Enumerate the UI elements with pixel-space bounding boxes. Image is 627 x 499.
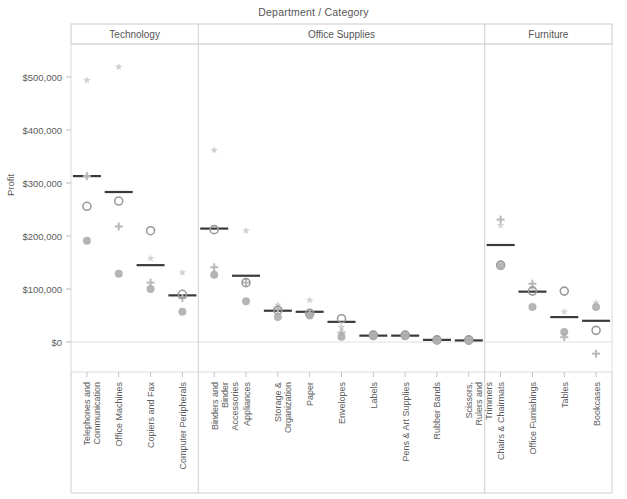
x-axis-category-label: Scissors,Rulers andTrimmers: [464, 382, 494, 426]
data-point-star[interactable]: [147, 254, 155, 261]
svg-text:Paper: Paper: [305, 382, 315, 406]
svg-text:Telephones and: Telephones and: [82, 382, 92, 446]
x-axis-category-label: Office Machines: [114, 382, 124, 447]
data-point-filled-circle[interactable]: [306, 312, 314, 320]
svg-text:Scissors,: Scissors,: [464, 382, 474, 419]
data-point-filled-circle[interactable]: [210, 271, 218, 279]
svg-text:Labels: Labels: [369, 382, 379, 409]
svg-text:Office Machines: Office Machines: [114, 382, 124, 447]
plot-area: $0$100,000$200,000$300,000$400,000$500,0…: [0, 0, 627, 499]
data-point-open-circle[interactable]: [560, 287, 568, 295]
y-axis-tick-label: $100,000: [22, 284, 62, 295]
data-point-star[interactable]: [115, 63, 123, 70]
data-point-filled-circle[interactable]: [497, 262, 505, 270]
data-point-filled-circle[interactable]: [433, 336, 441, 344]
x-axis-category-label: Tables: [560, 382, 570, 409]
x-axis-category-label: Copiers and Fax: [146, 382, 156, 449]
data-point-filled-circle[interactable]: [178, 308, 186, 316]
svg-text:Rulers and: Rulers and: [474, 382, 484, 426]
profit-scatter-chart: Department / Category Profit $0$100,000$…: [0, 0, 627, 499]
svg-text:Storage &: Storage &: [273, 382, 283, 422]
svg-text:Chairs & Chairmats: Chairs & Chairmats: [496, 382, 506, 461]
svg-text:Tables: Tables: [560, 382, 570, 409]
svg-text:Binder: Binder: [220, 382, 230, 408]
data-point-filled-circle[interactable]: [115, 270, 123, 278]
svg-text:Organization: Organization: [283, 382, 293, 433]
data-point-plus[interactable]: [210, 263, 218, 271]
data-point-filled-circle[interactable]: [592, 303, 600, 311]
y-axis-tick-label: $500,000: [22, 72, 62, 83]
data-point-plus[interactable]: [497, 216, 505, 224]
data-point-filled-circle[interactable]: [560, 328, 568, 336]
y-axis-tick-label: $0: [51, 337, 62, 348]
data-point-star[interactable]: [306, 296, 314, 303]
x-axis-category-label: Paper: [305, 382, 315, 406]
svg-text:Computer Peripherals: Computer Peripherals: [178, 382, 188, 470]
y-axis-tick-label: $200,000: [22, 231, 62, 242]
data-point-plus[interactable]: [115, 222, 123, 230]
data-point-star[interactable]: [210, 146, 218, 153]
data-point-open-circle[interactable]: [115, 197, 123, 205]
panel-header-label: Technology: [109, 29, 160, 40]
x-axis-category-label: Envelopes: [337, 382, 347, 425]
x-axis-category-label: Computer Peripherals: [178, 382, 188, 470]
svg-text:Accessories: Accessories: [230, 382, 240, 431]
x-axis-category-label: Bookcases: [592, 382, 602, 427]
x-axis-category-label: Telephones andCommunication: [82, 382, 102, 446]
data-point-filled-circle[interactable]: [465, 337, 473, 345]
data-point-filled-circle[interactable]: [401, 332, 409, 340]
svg-text:Binders and: Binders and: [210, 382, 220, 430]
data-point-star[interactable]: [179, 269, 187, 276]
data-point-plus[interactable]: [83, 172, 91, 180]
data-point-filled-circle[interactable]: [338, 333, 346, 341]
data-point-filled-circle[interactable]: [274, 313, 282, 321]
data-point-filled-circle[interactable]: [147, 285, 155, 293]
x-axis-category-label: Labels: [369, 382, 379, 409]
svg-text:Pens & Art Supplies: Pens & Art Supplies: [401, 382, 411, 462]
x-axis-category-label: Appliances: [242, 382, 252, 427]
svg-text:Communication: Communication: [92, 382, 102, 445]
svg-text:Rubber Bands: Rubber Bands: [432, 382, 442, 440]
x-axis-category-label: Binders andBinderAccessories: [210, 382, 240, 431]
x-axis-category-label: Chairs & Chairmats: [496, 382, 506, 461]
svg-text:Office Furnishings: Office Furnishings: [528, 382, 538, 455]
x-axis-category-label: Pens & Art Supplies: [401, 382, 411, 462]
data-point-filled-circle[interactable]: [83, 237, 91, 245]
panel-header-label: Furniture: [528, 29, 568, 40]
data-point-filled-circle[interactable]: [242, 297, 250, 305]
svg-text:Copiers and Fax: Copiers and Fax: [146, 382, 156, 449]
data-point-star[interactable]: [83, 76, 91, 83]
svg-text:Trimmers: Trimmers: [484, 382, 494, 420]
panel-header-label: Office Supplies: [308, 29, 375, 40]
data-point-filled-circle[interactable]: [369, 332, 377, 340]
svg-text:Appliances: Appliances: [242, 382, 252, 427]
data-point-open-circle[interactable]: [147, 227, 155, 235]
x-axis-category-label: Storage &Organization: [273, 382, 293, 433]
y-axis-tick-label: $400,000: [22, 125, 62, 136]
y-axis-tick-label: $300,000: [22, 178, 62, 189]
x-axis-category-label: Office Furnishings: [528, 382, 538, 455]
x-axis-category-label: Rubber Bands: [432, 382, 442, 440]
data-point-open-circle[interactable]: [83, 202, 91, 210]
svg-text:Bookcases: Bookcases: [592, 382, 602, 427]
data-point-star[interactable]: [242, 227, 250, 234]
svg-text:Envelopes: Envelopes: [337, 382, 347, 425]
data-point-star[interactable]: [560, 308, 568, 315]
data-point-open-circle[interactable]: [592, 326, 600, 334]
data-point-filled-circle[interactable]: [528, 303, 536, 311]
data-point-plus[interactable]: [592, 350, 600, 358]
